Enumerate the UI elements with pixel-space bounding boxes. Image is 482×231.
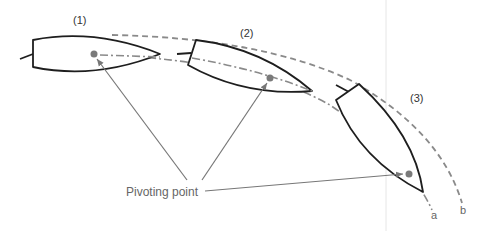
pivot-point-dot (267, 75, 274, 82)
rudder-icon (177, 53, 191, 54)
pivot-point-dot (91, 51, 98, 58)
boat-position-1 (20, 36, 160, 71)
path-a-label: a (431, 210, 437, 221)
pivot-arrow-2 (202, 83, 267, 180)
position-label-3: (3) (410, 93, 423, 104)
position-label-2: (2) (240, 28, 253, 39)
pivot-point-dot (406, 171, 413, 178)
path-b-label: b (460, 205, 466, 216)
pivot-arrow-1 (97, 59, 187, 180)
pivot-arrow-3 (205, 174, 403, 191)
rudder-icon (336, 85, 349, 92)
position-label-1: (1) (73, 15, 86, 26)
hull-outline (188, 40, 312, 92)
rudder-icon (20, 54, 33, 59)
pivoting-point-label: Pivoting point (126, 186, 198, 198)
